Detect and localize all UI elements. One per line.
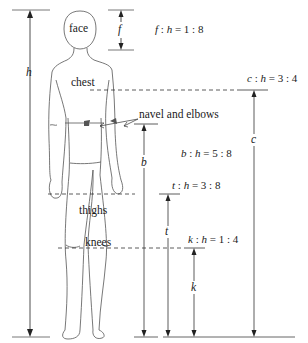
human-figure-outline <box>49 11 123 339</box>
ratio-b-value: 5 : 8 <box>212 147 232 159</box>
ratio-f-eq: = <box>172 23 184 35</box>
symbol-h: h <box>26 67 32 79</box>
ratio-k-h: k : h = 1 : 4 <box>188 234 238 245</box>
label-face: face <box>69 23 88 35</box>
ratio-k-eq: = <box>207 233 219 245</box>
ratio-b-sep: : <box>187 147 196 159</box>
thigh-dimension-t <box>48 194 180 337</box>
ratio-b-h: b : h = 5 : 8 <box>181 148 232 159</box>
chest-dimension-c <box>90 90 268 337</box>
symbol-f: f <box>118 24 121 36</box>
ratio-t-h: t : h = 3 : 8 <box>172 180 220 191</box>
ratio-c-h: c : h = 3 : 4 <box>247 73 297 84</box>
ratio-c-eq: = <box>266 72 278 84</box>
label-thighs: thighs <box>79 205 107 217</box>
ratio-c-value: 3 : 4 <box>278 72 298 84</box>
label-navel-and-elbows: navel and elbows <box>139 109 219 121</box>
proportion-diagram: face chest navel and elbows thighs knees… <box>0 0 308 343</box>
height-dimension-h <box>12 10 50 337</box>
ratio-k-value: 1 : 4 <box>219 233 239 245</box>
symbol-c: c <box>251 134 256 146</box>
ratio-f-h: f : h = 1 : 8 <box>155 24 203 35</box>
ratio-b-eq: = <box>201 147 213 159</box>
ratio-f-sep: : <box>158 23 167 35</box>
diagram-lines <box>0 0 308 343</box>
symbol-b: b <box>141 157 147 169</box>
ratio-t-eq: = <box>189 179 201 191</box>
ratio-t-sep: : <box>175 179 184 191</box>
label-chest: chest <box>71 77 95 89</box>
symbol-t: t <box>165 226 168 238</box>
symbol-k: k <box>191 282 196 294</box>
ratio-t-value: 3 : 8 <box>201 179 221 191</box>
label-knees: knees <box>85 237 111 249</box>
ratio-f-value: 1 : 8 <box>184 23 204 35</box>
navel-elbow-markers <box>65 118 138 128</box>
